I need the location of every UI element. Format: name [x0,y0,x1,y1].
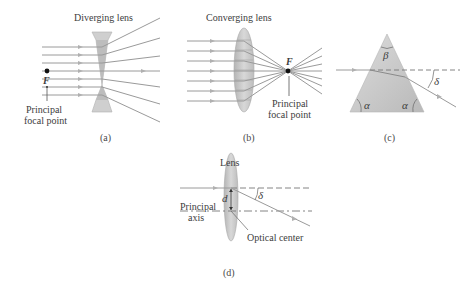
focal-label-b-line1: Principal [272,98,308,109]
focal-symbol-a: F [43,75,50,86]
focal-point-dot-a [45,69,50,74]
deviation-angle-delta-d: δ [258,190,263,201]
offset-symbol-d: d [222,193,228,204]
caption-a: (a) [100,132,111,143]
focal-symbol-b: F [286,56,293,67]
caption-c: (c) [384,132,395,143]
base-angle-alpha-right: α [402,100,408,111]
optical-center-label: Optical center [247,232,303,243]
focal-label-a-line1: Principal [26,104,62,115]
lens-title-d: Lens [220,157,239,168]
optics-diagram [0,0,475,283]
panel-c-prism [336,34,460,112]
base-angle-alpha-left: α [364,100,370,111]
apex-angle-beta: β [383,50,388,61]
focal-label-b-line2: focal point [268,109,311,120]
caption-d: (d) [223,267,235,278]
principal-axis-label-line1: Principal [180,201,216,212]
panel-d-lens-offset [180,153,312,241]
focal-label-a-line2: focal point [24,115,67,126]
deviation-angle-delta-c: δ [434,76,439,87]
converging-lens-title: Converging lens [206,12,272,23]
principal-axis-label-line2: axis [188,212,204,223]
diverging-lens-title: Diverging lens [74,12,133,23]
caption-b: (b) [243,132,255,143]
focal-point-dot-b [286,69,291,74]
